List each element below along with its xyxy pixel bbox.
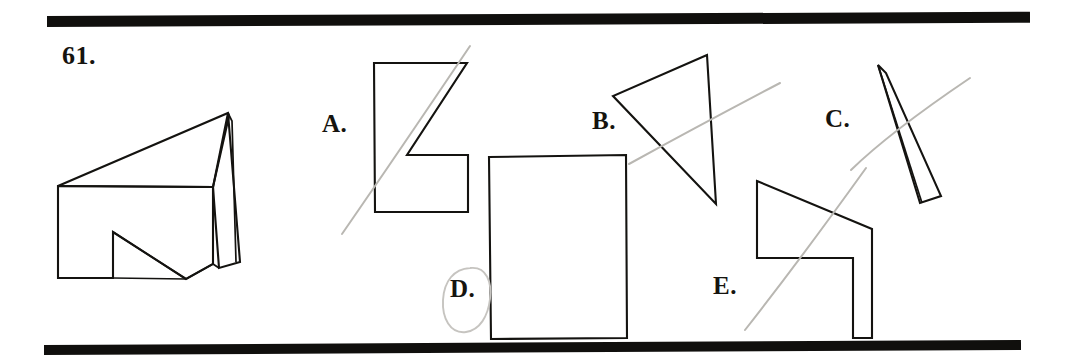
- pencil-stroke-a: [342, 46, 470, 234]
- option-shape-d[interactable]: [489, 155, 627, 339]
- option-label-b[interactable]: B.: [592, 107, 616, 135]
- option-c-sliver[interactable]: [878, 65, 941, 203]
- bottom-horizontal-rule: [44, 340, 1021, 355]
- solid-base-join: [213, 264, 219, 268]
- solid-notch-diagonal: [113, 232, 186, 279]
- solid-lower-diagonal: [186, 264, 213, 279]
- top-horizontal-rule: [47, 12, 1030, 27]
- solid-notch-base: [113, 278, 186, 279]
- pencil-stroke-b: [629, 83, 780, 164]
- option-label-c[interactable]: C.: [825, 105, 850, 133]
- solid-fin-edge: [228, 113, 236, 262]
- option-label-d[interactable]: D.: [450, 275, 475, 303]
- figure-artwork-layer: [0, 0, 1076, 362]
- option-shape-b[interactable]: [613, 55, 716, 204]
- option-d-rectangle[interactable]: [489, 155, 627, 339]
- worksheet-page: 61. A. B. C. D. E.: [0, 0, 1076, 362]
- pencil-stroke-e: [745, 168, 866, 330]
- solid-front-face: [58, 186, 213, 279]
- option-shape-a[interactable]: [374, 63, 468, 212]
- option-label-e[interactable]: E.: [713, 272, 737, 300]
- solid-fin-face: [213, 113, 240, 268]
- option-shape-c[interactable]: [878, 65, 941, 203]
- option-b-triangle[interactable]: [613, 55, 716, 204]
- option-e-polygon[interactable]: [757, 181, 872, 338]
- question-number: 61.: [62, 41, 96, 71]
- option-label-a[interactable]: A.: [322, 110, 347, 138]
- option-a-polygon[interactable]: [374, 63, 468, 212]
- prompt-figure-3d-solid: [58, 113, 240, 279]
- solid-top-face: [58, 113, 229, 187]
- option-shape-e[interactable]: [757, 181, 872, 338]
- option-c-inner-edge: [878, 65, 922, 203]
- pencil-stroke-c: [851, 78, 970, 170]
